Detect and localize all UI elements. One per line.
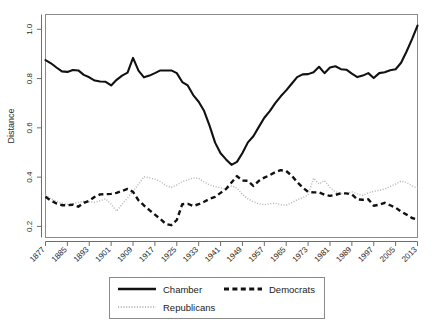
- chart-figure: 0.20.40.60.81.0 187718851893190119091917…: [0, 0, 433, 327]
- y-tick-label-1: 1.0: [25, 23, 34, 35]
- y-axis-title: Distance: [6, 108, 16, 143]
- legend-label-republicans: Republicans: [163, 302, 216, 313]
- legend-label-chamber: Chamber: [163, 284, 202, 295]
- y-tick-label-0.4: 0.4: [25, 171, 34, 183]
- y-tick-label-0.6: 0.6: [25, 122, 34, 134]
- chart-legend: Chamber Democrats Republicans: [110, 278, 325, 319]
- distance-line-chart: 0.20.40.60.81.0 187718851893190119091917…: [0, 0, 433, 327]
- y-tick-label-0.8: 0.8: [25, 72, 34, 84]
- y-tick-label-0.2: 0.2: [25, 220, 34, 232]
- legend-label-democrats: Democrats: [269, 284, 315, 295]
